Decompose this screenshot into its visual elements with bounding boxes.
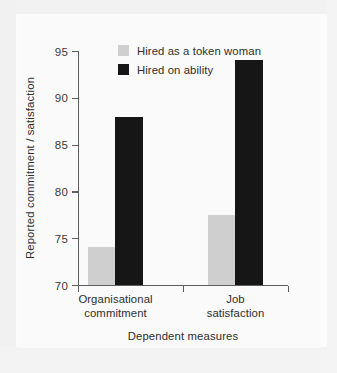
y-tick-label-85: 85: [55, 139, 68, 151]
x-category-label-job-satisfaction: Job satisfaction: [180, 292, 291, 320]
x-category-line-1: Organisational: [60, 292, 171, 306]
x-category-line-1: Job: [180, 292, 291, 306]
legend-swatch-icon-light: [118, 45, 129, 56]
y-tick-label-95: 95: [55, 46, 68, 58]
x-tick-start: [78, 286, 79, 292]
page-edge-left: [0, 0, 16, 373]
y-axis-line: [78, 51, 79, 286]
chart-legend: Hired as a token woman Hired on ability: [118, 42, 261, 80]
y-tick-95: 95: [72, 51, 78, 52]
y-tick-label-75: 75: [55, 233, 68, 245]
y-tick-label-90: 90: [55, 92, 68, 104]
y-axis-title: Reported commitment / satisfaction: [24, 77, 36, 259]
y-tick-85: 85: [72, 145, 78, 146]
x-tick-middle: [183, 286, 184, 292]
bar-token-job-satisfaction: [208, 215, 235, 285]
x-category-line-2: commitment: [60, 306, 171, 320]
legend-item-ability: Hired on ability: [118, 61, 261, 78]
x-axis-title: Dependent measures: [78, 330, 288, 342]
page-edge-top: [0, 0, 337, 14]
x-tick-end: [288, 286, 289, 292]
y-tick-90: 90: [72, 98, 78, 99]
legend-item-token-woman: Hired as a token woman: [118, 42, 261, 59]
y-tick-label-80: 80: [55, 186, 68, 198]
legend-label-token-woman: Hired as a token woman: [137, 45, 261, 57]
bar-ability-job-satisfaction: [235, 60, 263, 285]
legend-swatch-icon-dark: [118, 64, 129, 75]
x-category-line-2: satisfaction: [180, 306, 291, 320]
bar-token-organisational-commitment: [88, 247, 115, 285]
page-edge-bottom: [0, 347, 337, 373]
y-tick-75: 75: [72, 238, 78, 239]
page-edge-right: [327, 0, 337, 373]
legend-label-ability: Hired on ability: [137, 64, 213, 76]
bar-ability-organisational-commitment: [115, 117, 143, 285]
x-category-label-organisational-commitment: Organisational commitment: [60, 292, 171, 320]
chart-page: 95 90 85 80 75 70 Reported commitment / …: [0, 0, 337, 373]
y-tick-label-70: 70: [55, 280, 68, 292]
y-tick-80: 80: [72, 191, 78, 192]
